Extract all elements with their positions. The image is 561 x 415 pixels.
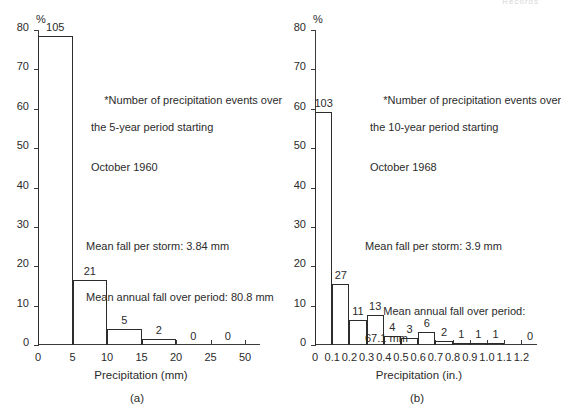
x-axis-tick-label: 15 xyxy=(135,352,147,363)
histogram-bar xyxy=(107,329,142,345)
x-axis-tick xyxy=(211,340,212,345)
note-line-6-b: 67.1 mm xyxy=(365,332,561,346)
annotation-note-a: *Number of precipitation events over the… xyxy=(86,53,282,332)
note-line-3-b: October 1968 xyxy=(365,161,561,175)
note-line-2-a: the 5-year period starting xyxy=(86,121,282,135)
histogram-bar xyxy=(38,36,73,345)
x-axis-tick-label: 50 xyxy=(239,352,251,363)
y-axis-tick-label: 10 xyxy=(17,298,29,309)
x-axis-tick-label: 0 xyxy=(312,352,318,363)
y-axis-tick-label: 0 xyxy=(300,337,306,348)
y-axis-tick: 80 xyxy=(34,30,39,31)
y-axis-tick-label: 70 xyxy=(294,61,306,72)
note-line-1-b: *Number of precipitation events over xyxy=(383,94,561,106)
y-axis-tick-label: 30 xyxy=(294,219,306,230)
annotation-note-b: *Number of precipitation events over the… xyxy=(365,53,561,399)
bar-count-label: 11 xyxy=(352,306,363,317)
y-axis-tick-label: 80 xyxy=(17,22,29,33)
x-axis-tick-label: 20 xyxy=(170,352,182,363)
y-axis-tick-label: 70 xyxy=(17,61,29,72)
bar-count-label: 103 xyxy=(314,98,332,109)
y-axis-tick-label: 10 xyxy=(294,298,306,309)
note-line-4-b: Mean fall per storm: 3.9 mm xyxy=(365,240,561,254)
x-axis-tick-label: 25 xyxy=(204,352,216,363)
bar-count-label: 105 xyxy=(46,22,64,33)
x-axis-tick-label: 10 xyxy=(101,352,113,363)
note-line-5-a: Mean annual fall over period: 80.8 mm xyxy=(86,291,282,305)
bar-count-label: 0 xyxy=(190,331,196,342)
y-axis-tick-label: 60 xyxy=(17,101,29,112)
bar-count-label: 27 xyxy=(335,270,347,281)
histogram-bar xyxy=(142,339,177,345)
y-axis-unit-label-b: % xyxy=(313,14,323,25)
bar-count-label: 0 xyxy=(225,331,231,342)
y-axis-tick-label: 50 xyxy=(294,140,306,151)
histogram-bar xyxy=(349,320,366,345)
y-axis-tick-label: 80 xyxy=(294,22,306,33)
note-line-4-a: Mean fall per storm: 3.84 mm xyxy=(86,240,282,254)
y-axis-tick: 70 xyxy=(311,69,316,70)
histogram-panel-a: % 01020304050607080 051015202550 1052152… xyxy=(0,0,276,415)
x-axis-title-b: Precipitation (in.) xyxy=(281,369,557,381)
y-axis-tick-label: 30 xyxy=(17,219,29,230)
y-axis-tick-label: 20 xyxy=(17,258,29,269)
y-axis-tick-label: 20 xyxy=(294,258,306,269)
y-axis-tick-label: 0 xyxy=(23,337,29,348)
panel-label-a: (a) xyxy=(0,392,275,404)
note-line-1-a: *Number of precipitation events over xyxy=(104,94,282,106)
histogram-panel-b: % 01020304050607080 00.10.20.30.40.50.60… xyxy=(277,0,553,415)
x-axis-tick-label: 5 xyxy=(69,352,75,363)
note-line-5-b: Mean annual fall over period: xyxy=(383,305,525,317)
y-axis-tick: 0 xyxy=(311,345,316,346)
histogram-bar xyxy=(332,284,349,345)
x-axis-tick-label: 0 xyxy=(35,352,41,363)
y-axis-tick-label: 40 xyxy=(17,180,29,191)
y-axis-tick-label: 40 xyxy=(294,180,306,191)
y-axis-tick-label: 60 xyxy=(294,101,306,112)
y-axis-tick: 0 xyxy=(34,345,39,346)
x-axis-tick-label: 0.2 xyxy=(342,352,357,363)
x-axis-tick xyxy=(245,340,246,345)
x-axis-tick xyxy=(176,340,177,345)
note-line-3-a: October 1960 xyxy=(86,161,282,175)
y-axis-unit-label-a: % xyxy=(36,14,46,25)
x-axis-tick-label: 0.1 xyxy=(325,352,340,363)
y-axis-tick: 80 xyxy=(311,30,316,31)
note-line-2-b: the 10-year period starting xyxy=(365,121,561,135)
x-axis-title-a: Precipitation (mm) xyxy=(3,369,279,381)
panel-label-b: (b) xyxy=(279,392,555,404)
histogram-bar xyxy=(315,112,332,345)
y-axis-tick-label: 50 xyxy=(17,140,29,151)
